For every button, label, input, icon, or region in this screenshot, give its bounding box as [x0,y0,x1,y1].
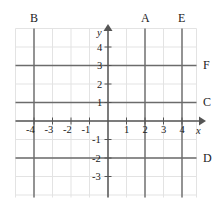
line-label-f: F [203,59,210,71]
y-tick-label-3: 3 [97,61,102,72]
line-label-e: E [178,12,185,24]
x-tick-label--2: -2 [63,125,72,136]
line-label-a: A [141,12,150,24]
x-tick-label-4: 4 [180,125,185,136]
x-tick-label-2: 2 [143,125,148,136]
line-label-c: C [203,96,211,108]
coordinate-grid-figure: -4 -3 -2 -1 1 2 3 4 4 3 2 1 -1 -2 -3 x y… [0,0,224,209]
y-tick-label--2: -2 [92,154,101,165]
x-tick-label--4: -4 [26,125,35,136]
y-axis-label: y [97,28,102,39]
y-tick-label-4: 4 [97,43,102,54]
y-tick-label--3: -3 [92,172,101,183]
x-tick-label-1: 1 [124,125,129,136]
x-tick-label-3: 3 [161,125,166,136]
y-tick-label--1: -1 [92,135,101,146]
line-label-d: D [203,152,212,164]
y-tick-label-1: 1 [97,98,102,109]
x-tick-label--1: -1 [82,125,91,136]
grid-lines [16,29,197,198]
line-label-b: B [30,12,38,24]
y-tick-label-2: 2 [97,80,102,91]
plot-area [0,0,224,209]
x-tick-label--3: -3 [45,125,54,136]
y-axis [104,24,113,198]
x-axis-label: x [196,126,201,137]
